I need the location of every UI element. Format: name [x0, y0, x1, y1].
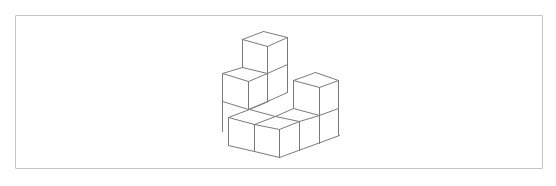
cube-edge	[223, 68, 243, 74]
cube-edge	[280, 122, 300, 130]
cube-stack-diagram	[0, 0, 556, 186]
cube-edge	[243, 68, 268, 74]
cube-edge	[255, 117, 276, 125]
cube-edge	[255, 125, 280, 130]
cube-edge	[294, 73, 316, 81]
cube-edge	[249, 74, 268, 82]
cube-edge	[243, 40, 268, 47]
cube-edge	[255, 152, 280, 158]
cube-edge	[276, 117, 300, 122]
cube-edge	[320, 109, 339, 116]
cube-edge	[223, 102, 249, 110]
cube-edge	[268, 93, 288, 102]
cube-edge	[280, 136, 340, 158]
cube-edge	[223, 74, 249, 82]
cube-edge	[268, 38, 288, 47]
cube-edge	[276, 109, 294, 117]
cube-edge	[264, 32, 288, 38]
cube-edge	[320, 81, 339, 88]
cube-edge	[294, 81, 320, 88]
cube-edge	[229, 146, 255, 152]
cube-edge	[316, 73, 339, 81]
cube-edge	[268, 65, 288, 74]
cube-edge	[294, 109, 320, 116]
cube-edge	[229, 118, 255, 125]
cube-edge	[243, 32, 264, 40]
cube-edges	[223, 32, 340, 158]
cube-edge	[300, 116, 320, 122]
cube-edge	[250, 110, 276, 117]
cube-edge	[229, 110, 250, 118]
cube-edge	[250, 102, 269, 110]
